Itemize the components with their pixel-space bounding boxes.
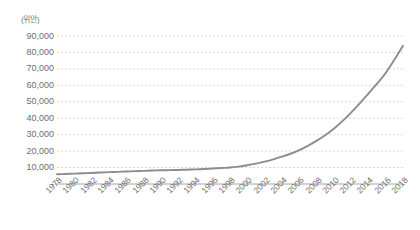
x-axis-tick-label: 1994 bbox=[182, 176, 202, 196]
x-axis-tick-label: 2006 bbox=[286, 176, 306, 196]
x-axis-tick-label: 2008 bbox=[304, 176, 324, 196]
x-axis-tick-label: 1992 bbox=[165, 176, 185, 196]
x-axis-tick-label: 1998 bbox=[217, 176, 237, 196]
line-chart: (위안) 90,00080,00070,00060,00050,00040,00… bbox=[0, 0, 420, 230]
x-axis-tick-label: 2014 bbox=[355, 176, 375, 196]
x-axis-tick-label: 1996 bbox=[200, 176, 220, 196]
x-axis-tick-label: 2012 bbox=[338, 176, 358, 196]
x-axis-tick-label: 1980 bbox=[61, 176, 81, 196]
x-axis-tick-label: 1984 bbox=[96, 176, 116, 196]
x-axis-tick-label: 2016 bbox=[373, 176, 393, 196]
x-axis-tick-label: 2004 bbox=[269, 176, 289, 196]
x-axis-tick-label: 2000 bbox=[234, 176, 254, 196]
x-axis-tick-labels: 1978198019821984198619881990199219941996… bbox=[0, 0, 420, 230]
x-axis-tick-label: 1988 bbox=[131, 176, 151, 196]
x-axis-tick-label: 1986 bbox=[113, 176, 133, 196]
x-axis-tick-label: 1982 bbox=[79, 176, 99, 196]
x-axis-tick-label: 1978 bbox=[44, 176, 64, 196]
x-axis-tick-label: 2018 bbox=[390, 176, 410, 196]
x-axis-tick-label: 1990 bbox=[148, 176, 168, 196]
x-axis-tick-label: 2010 bbox=[321, 176, 341, 196]
x-axis-tick-label: 2002 bbox=[252, 176, 272, 196]
